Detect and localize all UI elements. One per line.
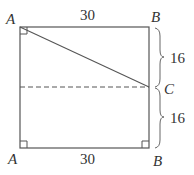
dimension-top-width: 30 (80, 7, 95, 23)
diagonal-line-ac (20, 27, 149, 87)
right-angle-marker-bottom-left (20, 141, 27, 148)
label-mid-right-c: C (164, 81, 175, 97)
label-top-left-a: A (5, 11, 16, 27)
label-bottom-right-b: B (153, 153, 162, 169)
dimension-bottom-width: 30 (80, 151, 95, 167)
dimension-lower-height: 16 (170, 110, 186, 126)
label-bottom-left-a: A (7, 151, 18, 167)
lower-brace (155, 88, 164, 148)
dimension-upper-height: 16 (170, 50, 186, 66)
right-angle-marker-bottom-right (142, 141, 149, 148)
geometry-diagram: A B A B C 30 30 16 16 (0, 0, 194, 175)
label-top-right-b: B (151, 9, 160, 25)
upper-brace (155, 28, 164, 87)
